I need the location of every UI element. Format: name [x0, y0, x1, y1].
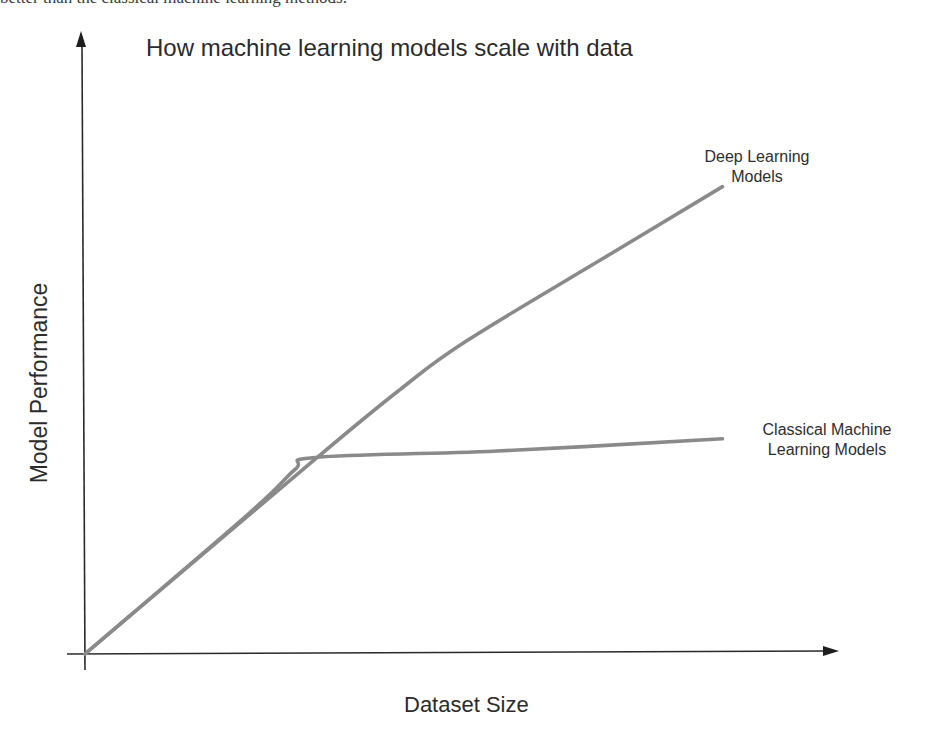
classical-ml-line — [85, 439, 723, 654]
x-axis-arrow-icon — [823, 646, 839, 656]
classical-ml-label-line-2: Learning Models — [737, 440, 917, 460]
y-axis-label: Model Performance — [26, 283, 53, 484]
deep-learning-label-line-1: Deep Learning — [697, 147, 817, 167]
x-axis — [67, 646, 839, 656]
classical-ml-label-line-1: Classical Machine — [737, 420, 917, 440]
x-axis-label: Dataset Size — [404, 692, 529, 718]
plot-area — [0, 0, 938, 750]
classical-ml-label: Classical Machine Learning Models — [737, 420, 917, 460]
deep-learning-label-line-2: Models — [697, 167, 817, 187]
deep-learning-label: Deep Learning Models — [697, 147, 817, 187]
y-axis-arrow-icon — [76, 31, 86, 47]
y-axis — [76, 31, 86, 670]
deep-learning-line — [85, 187, 723, 654]
